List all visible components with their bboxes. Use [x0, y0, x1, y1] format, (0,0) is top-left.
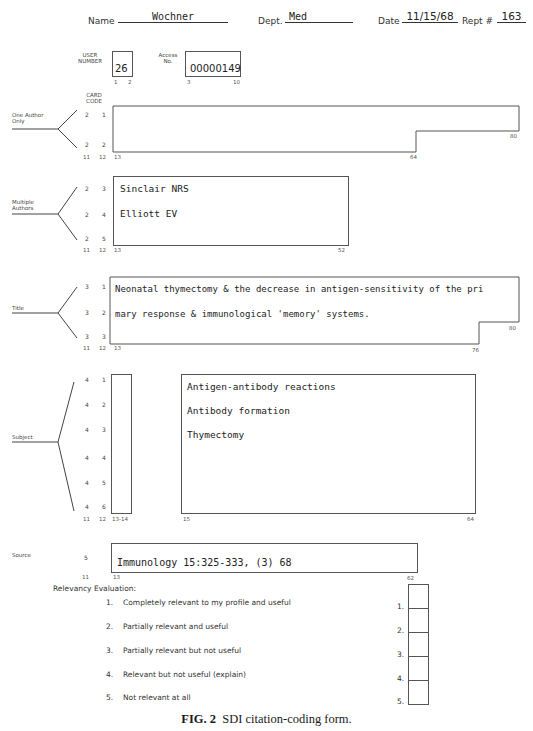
code-cell: 1 [102, 111, 106, 118]
code-cell: 3 [85, 283, 89, 290]
subject-term-2: Antibody formation [187, 405, 290, 416]
figure-caption: FIG. 2 SDI citation-coding form. [0, 712, 533, 727]
multiple-authors-field[interactable]: Sinclair NRS Elliott EV [113, 176, 349, 246]
name-field[interactable]: Wochner [118, 11, 228, 23]
title-line-1: Neonatal thymectomy & the decrease in an… [115, 284, 483, 294]
option-number: 3. [106, 646, 113, 655]
col-num: 12 [99, 516, 106, 522]
access-no-box[interactable]: 00000149 [185, 51, 241, 77]
code-cell: 1 [102, 283, 106, 290]
col-num: 13 [113, 574, 120, 580]
multiple-authors-label-2: Authors [12, 205, 34, 211]
code-cell: 5 [102, 479, 106, 486]
col-num: 80 [509, 325, 516, 331]
box-label: 2. [397, 626, 404, 635]
col-num: 13 [114, 247, 121, 253]
relevancy-title: Relevancy Evaluation: [53, 584, 136, 593]
col-num: 15 [183, 516, 190, 522]
subject-bracket-icon [0, 0, 1, 1]
code-cell: 2 [102, 309, 106, 316]
date-field[interactable]: 11/15/68 [402, 10, 458, 23]
box-label: 4. [397, 674, 404, 683]
code-cell: 4 [85, 426, 89, 433]
subject-term-1: Antigen-antibody reactions [187, 381, 336, 392]
access-col-end: 10 [233, 79, 240, 85]
source-value: Immunology 15:325-333, (3) 68 [117, 557, 292, 568]
box-label: 1. [397, 602, 404, 611]
subject-label: Subject [12, 434, 33, 440]
code-cell: 4 [85, 479, 89, 486]
relevancy-checkbox-1[interactable] [408, 584, 429, 609]
box-label: 5. [397, 697, 404, 706]
title-label: Title [12, 305, 24, 311]
access-col-start: 3 [187, 79, 191, 85]
relevancy-checkbox-2[interactable] [408, 608, 429, 633]
col-num: 64 [467, 516, 474, 522]
option-text: Completely relevant to my profile and us… [123, 598, 291, 607]
code-cell: 2 [85, 211, 89, 218]
col-num: 11 [83, 247, 90, 253]
user-number-value: 26 [115, 63, 128, 74]
code-cell: 4 [85, 376, 89, 383]
multiple-authors-label: Multiple Authors [12, 199, 34, 211]
option-number: 1. [106, 598, 113, 607]
option-text: Relevant but not useful (explain) [123, 670, 246, 679]
option-text: Not relevant at all [123, 693, 191, 702]
col-num: 62 [407, 575, 414, 581]
col-num: 13 [114, 345, 121, 351]
code-cell: 2 [85, 141, 89, 148]
col-num: 11 [83, 516, 90, 522]
subject-term-3: Thymectomy [187, 429, 244, 440]
code-cell: 4 [102, 454, 106, 461]
access-label-2: No. [154, 58, 182, 64]
author-line-1: Sinclair NRS [120, 183, 189, 194]
code-cell: 1 [102, 376, 106, 383]
figure-caption-text: SDI citation-coding form. [222, 712, 352, 726]
relevancy-checkbox-3[interactable] [408, 632, 429, 657]
access-no-value: 00000149 [190, 63, 241, 74]
code-cell: 2 [102, 401, 106, 408]
col-num: 13-14 [112, 516, 128, 522]
user-col-start: 1 [114, 79, 118, 85]
source-label: Source [12, 552, 31, 558]
box-label: 3. [397, 650, 404, 659]
card-code-heading: CARD CODE [82, 92, 106, 104]
col-num: 11 [83, 154, 90, 160]
date-label: Date [378, 16, 400, 26]
col-num: 76 [472, 347, 479, 353]
code-cell: 4 [85, 401, 89, 408]
subject-terms-field[interactable]: Antigen-antibody reactions Antibody form… [181, 374, 476, 514]
user-number-box[interactable]: 26 [112, 51, 133, 77]
figure-number: FIG. 2 [181, 712, 216, 726]
option-text: Partially relevant but not useful [123, 646, 241, 655]
code-cell: 5 [102, 235, 106, 242]
rept-field[interactable]: 163 [497, 10, 526, 23]
source-field[interactable]: Immunology 15:325-333, (3) 68 [111, 543, 418, 573]
option-text: Partially relevant and useful [123, 622, 228, 631]
relevancy-checkbox-5[interactable] [408, 680, 429, 705]
col-num: 12 [99, 154, 106, 160]
title-line-2: mary response & immunological 'memory' s… [115, 309, 370, 319]
code-cell: 2 [102, 141, 106, 148]
col-num: 11 [83, 345, 90, 351]
one-author-label-2: Only [12, 118, 43, 124]
code-cell: 2 [85, 185, 89, 192]
name-label: Name [88, 16, 115, 26]
dept-label: Dept. [258, 16, 283, 26]
code-cell: 2 [85, 235, 89, 242]
subject-code-field[interactable] [111, 374, 132, 514]
source-code: 5 [84, 554, 88, 561]
code-cell: 4 [85, 503, 89, 510]
relevancy-checkbox-4[interactable] [408, 656, 429, 681]
col-num: 52 [338, 247, 345, 253]
option-number: 5. [106, 693, 113, 702]
dept-field[interactable]: Med [285, 11, 353, 23]
code-cell: 3 [102, 333, 106, 340]
col-num: 12 [99, 247, 106, 253]
code-cell: 3 [85, 309, 89, 316]
code-cell: 3 [102, 185, 106, 192]
col-num: 80 [510, 133, 517, 139]
option-number: 2. [106, 622, 113, 631]
col-num: 12 [99, 345, 106, 351]
author-line-2: Elliott EV [120, 208, 177, 219]
